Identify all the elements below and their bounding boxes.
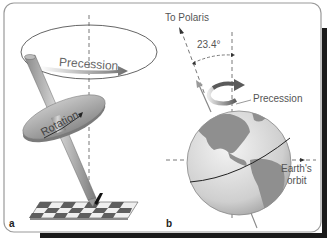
orbit-label-line1: Earth's [281,163,312,174]
polaris-label: To Polaris [165,12,209,23]
figure-frame: Precession Rotation a To Polaris 23.4° P… [0,0,327,238]
orbit-label-line2: orbit [287,175,306,186]
panel-letter-a: a [9,218,15,229]
earth-globe [187,111,291,215]
tilt-angle-label: 23.4° [197,39,220,50]
precession-label-b: Precession [253,93,302,104]
precession-diagram [0,0,327,238]
panel-letter-b: b [166,218,172,229]
